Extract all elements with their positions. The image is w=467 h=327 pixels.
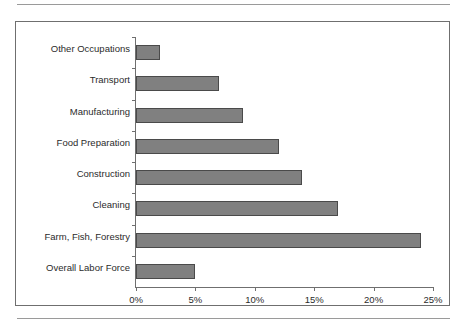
category-tick-mark: [132, 225, 136, 226]
bar: [136, 108, 243, 123]
bar: [136, 170, 302, 185]
bar-row: Other Occupations: [136, 37, 433, 68]
value-tick-label: 0%: [129, 294, 143, 306]
bar: [136, 45, 160, 60]
value-tick-label: 10%: [245, 294, 264, 306]
category-tick-mark: [132, 256, 136, 257]
category-tick-mark: [132, 193, 136, 194]
bar: [136, 201, 338, 216]
value-tick-label: 20%: [364, 294, 383, 306]
category-tick-mark: [132, 68, 136, 69]
page-rule-top: [17, 4, 450, 5]
category-label: Cleaning: [93, 199, 131, 211]
value-tick-mark: [136, 287, 137, 291]
bar: [136, 76, 219, 91]
bar-row: Construction: [136, 162, 433, 193]
value-tick-mark: [374, 287, 375, 291]
value-tick-label: 15%: [305, 294, 324, 306]
category-label: Overall Labor Force: [46, 262, 130, 274]
bar: [136, 233, 421, 248]
value-tick-mark: [433, 287, 434, 291]
category-label: Other Occupations: [51, 43, 130, 55]
bar: [136, 264, 195, 279]
value-tick-mark: [255, 287, 256, 291]
category-label: Manufacturing: [70, 106, 130, 118]
bar-rows: Other OccupationsTransportManufacturingF…: [136, 37, 433, 287]
bar-row: Food Preparation: [136, 131, 433, 162]
chart-figure-frame: Other OccupationsTransportManufacturingF…: [15, 21, 450, 306]
category-label: Transport: [90, 74, 130, 86]
category-tick-mark: [132, 131, 136, 132]
value-tick-mark: [195, 287, 196, 291]
category-label: Farm, Fish, Forestry: [44, 231, 130, 243]
bar: [136, 139, 279, 154]
bar-chart-plot-area: Other OccupationsTransportManufacturingF…: [136, 37, 433, 287]
bar-row: Cleaning: [136, 193, 433, 224]
bar-row: Farm, Fish, Forestry: [136, 225, 433, 256]
category-tick-mark: [132, 37, 136, 38]
category-label: Food Preparation: [57, 137, 130, 149]
bar-row: Manufacturing: [136, 100, 433, 131]
category-tick-mark: [132, 162, 136, 163]
value-tick-mark: [314, 287, 315, 291]
category-tick-mark: [132, 100, 136, 101]
bar-row: Transport: [136, 68, 433, 99]
value-tick-label: 5%: [189, 294, 203, 306]
category-label: Construction: [77, 168, 130, 180]
value-axis-line: [135, 287, 433, 288]
bar-row: Overall Labor Force: [136, 256, 433, 287]
value-tick-label: 25%: [423, 294, 442, 306]
page-rule-bottom: [17, 318, 450, 319]
